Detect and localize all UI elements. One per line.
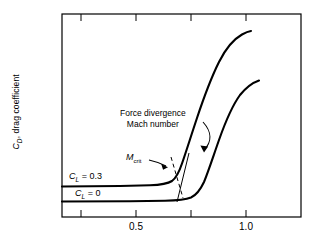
series-label-cl-03: CL = 0.3 [69, 171, 102, 183]
mcrit-annotation-sub: crit [134, 158, 142, 164]
force-divergence-annotation: Force divergence Mach number [120, 108, 186, 129]
mcrit-annotation-symbol: M [126, 152, 134, 162]
force-divergence-annotation-line2: Mach number [120, 119, 186, 130]
force-divergence-annotation-line1: Force divergence [120, 108, 186, 119]
series-label-cl-0-sub: L [82, 193, 86, 200]
series-label-cl-0-value: = 0 [88, 188, 101, 198]
x-tick-label-10: 1.0 [226, 221, 266, 232]
series-label-cl-0: CL = 0 [75, 188, 100, 200]
drag-coefficient-chart: CD, drag coefficient [0, 0, 314, 245]
x-tick-label-05: 0.5 [116, 221, 156, 232]
series-label-cl-03-value: = 0.3 [82, 171, 102, 181]
series-label-cl-03-sub: L [76, 176, 80, 183]
mcrit-annotation: Mcrit [126, 152, 142, 164]
